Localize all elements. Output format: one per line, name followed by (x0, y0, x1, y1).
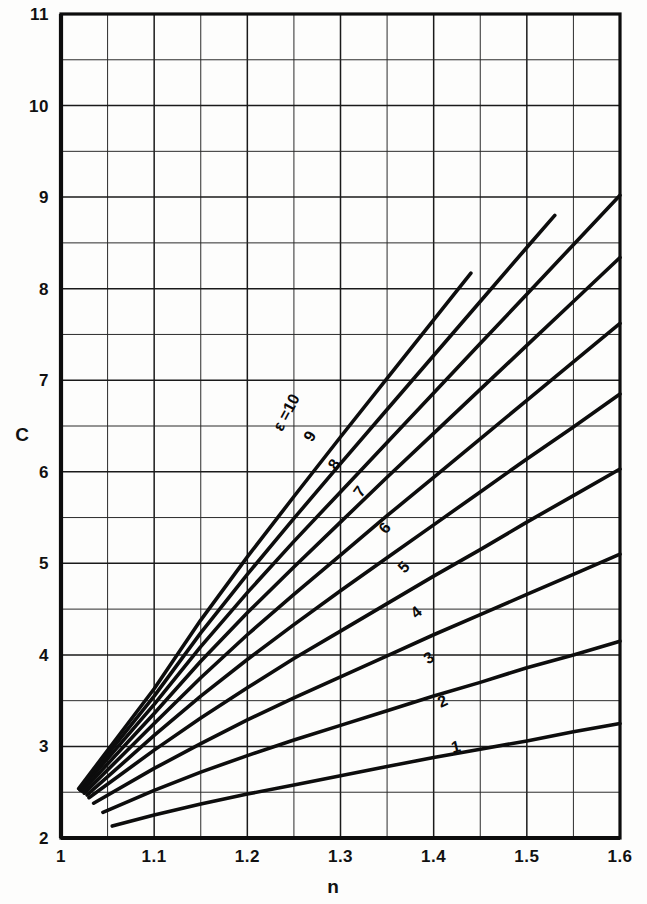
x-tick-label: 1.2 (235, 847, 260, 866)
y-tick-label: 9 (39, 188, 49, 207)
x-tick-label: 1.1 (142, 847, 167, 866)
y-tick-label: 7 (39, 371, 49, 390)
y-tick-label: 11 (30, 5, 49, 24)
y-tick-label: 5 (39, 554, 49, 573)
y-tick-label: 3 (39, 737, 49, 756)
x-tick-label: 1 (56, 847, 66, 866)
x-tick-label: 1.3 (328, 847, 353, 866)
chart-figure: ε =10987654321 11.11.21.31.41.51.6 23456… (0, 0, 647, 904)
y-tick-label: 4 (39, 646, 49, 665)
x-tick-label: 1.4 (421, 847, 446, 866)
y-axis-title: C (15, 424, 29, 445)
chart-canvas: ε =10987654321 11.11.21.31.41.51.6 23456… (0, 0, 647, 904)
y-tick-label: 2 (39, 829, 49, 848)
x-tick-label: 1.6 (607, 847, 632, 866)
y-tick-label: 6 (39, 463, 49, 482)
x-tick-label: 1.5 (514, 847, 539, 866)
y-tick-label: 10 (29, 97, 49, 116)
y-tick-label: 8 (39, 280, 49, 299)
x-axis-title: n (327, 876, 339, 897)
